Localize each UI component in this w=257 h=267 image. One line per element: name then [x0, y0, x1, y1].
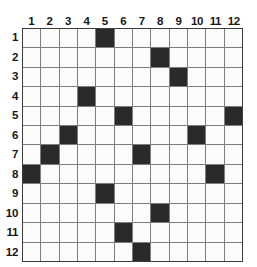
grid-cell-r4-c3[interactable] [60, 87, 77, 105]
grid-cell-r8-c3[interactable] [60, 165, 77, 183]
grid-cell-r5-c1[interactable] [23, 107, 40, 125]
grid-cell-r6-c5[interactable] [96, 126, 113, 144]
grid-cell-r10-c9[interactable] [170, 204, 187, 222]
grid-cell-r3-c7[interactable] [133, 68, 150, 86]
grid-cell-r4-c1[interactable] [23, 87, 40, 105]
grid-cell-r11-c7[interactable] [133, 223, 150, 241]
grid-cell-r8-c5[interactable] [96, 165, 113, 183]
grid-cell-r1-c2[interactable] [41, 29, 58, 47]
grid-cell-r8-c1[interactable] [23, 165, 40, 183]
grid-cell-r7-c5[interactable] [96, 145, 113, 163]
grid-cell-r8-c8[interactable] [151, 165, 168, 183]
grid-cell-r11-c6[interactable] [115, 223, 132, 241]
grid-cell-r1-c7[interactable] [133, 29, 150, 47]
grid-cell-r8-c12[interactable] [225, 165, 242, 183]
grid-cell-r10-c7[interactable] [133, 204, 150, 222]
grid-cell-r10-c8[interactable] [151, 204, 168, 222]
grid-cell-r3-c5[interactable] [96, 68, 113, 86]
grid-cell-r12-c9[interactable] [170, 243, 187, 261]
grid-cell-r2-c1[interactable] [23, 48, 40, 66]
grid-cell-r4-c10[interactable] [188, 87, 205, 105]
grid-cell-r8-c11[interactable] [206, 165, 223, 183]
grid-cell-r12-c2[interactable] [41, 243, 58, 261]
grid-cell-r8-c10[interactable] [188, 165, 205, 183]
grid-cell-r6-c6[interactable] [115, 126, 132, 144]
grid-cell-r10-c11[interactable] [206, 204, 223, 222]
grid-cell-r7-c10[interactable] [188, 145, 205, 163]
grid-cell-r7-c2[interactable] [41, 145, 58, 163]
grid-cell-r7-c3[interactable] [60, 145, 77, 163]
grid-cell-r4-c11[interactable] [206, 87, 223, 105]
grid-cell-r1-c10[interactable] [188, 29, 205, 47]
grid-cell-r7-c8[interactable] [151, 145, 168, 163]
grid-cell-r1-c4[interactable] [78, 29, 95, 47]
grid-cell-r8-c7[interactable] [133, 165, 150, 183]
grid-cell-r10-c2[interactable] [41, 204, 58, 222]
grid-cell-r6-c12[interactable] [225, 126, 242, 144]
grid-cell-r2-c9[interactable] [170, 48, 187, 66]
grid-cell-r12-c4[interactable] [78, 243, 95, 261]
grid-cell-r7-c4[interactable] [78, 145, 95, 163]
grid-cell-r11-c12[interactable] [225, 223, 242, 241]
grid-cell-r11-c10[interactable] [188, 223, 205, 241]
grid-cell-r12-c3[interactable] [60, 243, 77, 261]
grid-cell-r1-c6[interactable] [115, 29, 132, 47]
grid-cell-r12-c7[interactable] [133, 243, 150, 261]
grid-cell-r7-c6[interactable] [115, 145, 132, 163]
grid-cell-r12-c5[interactable] [96, 243, 113, 261]
grid-cell-r7-c7[interactable] [133, 145, 150, 163]
grid-cell-r6-c3[interactable] [60, 126, 77, 144]
grid-cell-r10-c4[interactable] [78, 204, 95, 222]
grid-cell-r12-c8[interactable] [151, 243, 168, 261]
grid-cell-r5-c11[interactable] [206, 107, 223, 125]
grid-cell-r3-c8[interactable] [151, 68, 168, 86]
grid-cell-r1-c5[interactable] [96, 29, 113, 47]
grid-cell-r1-c11[interactable] [206, 29, 223, 47]
grid-cell-r2-c4[interactable] [78, 48, 95, 66]
grid-cell-r3-c10[interactable] [188, 68, 205, 86]
grid-cell-r9-c2[interactable] [41, 184, 58, 202]
grid-cell-r12-c10[interactable] [188, 243, 205, 261]
grid-cell-r1-c1[interactable] [23, 29, 40, 47]
grid-cell-r12-c1[interactable] [23, 243, 40, 261]
grid-cell-r5-c12[interactable] [225, 107, 242, 125]
grid-cell-r3-c6[interactable] [115, 68, 132, 86]
grid-cell-r10-c12[interactable] [225, 204, 242, 222]
grid-cell-r8-c2[interactable] [41, 165, 58, 183]
grid-cell-r5-c8[interactable] [151, 107, 168, 125]
grid-cell-r2-c3[interactable] [60, 48, 77, 66]
grid-cell-r11-c5[interactable] [96, 223, 113, 241]
grid-cell-r4-c7[interactable] [133, 87, 150, 105]
grid-cell-r4-c8[interactable] [151, 87, 168, 105]
puzzle-grid[interactable] [22, 28, 243, 262]
grid-cell-r12-c11[interactable] [206, 243, 223, 261]
grid-cell-r5-c4[interactable] [78, 107, 95, 125]
grid-cell-r7-c11[interactable] [206, 145, 223, 163]
grid-cell-r12-c6[interactable] [115, 243, 132, 261]
grid-cell-r9-c1[interactable] [23, 184, 40, 202]
grid-cell-r6-c10[interactable] [188, 126, 205, 144]
grid-cell-r9-c10[interactable] [188, 184, 205, 202]
grid-cell-r3-c3[interactable] [60, 68, 77, 86]
grid-cell-r1-c3[interactable] [60, 29, 77, 47]
grid-cell-r9-c11[interactable] [206, 184, 223, 202]
grid-cell-r5-c7[interactable] [133, 107, 150, 125]
grid-cell-r8-c4[interactable] [78, 165, 95, 183]
grid-cell-r5-c6[interactable] [115, 107, 132, 125]
grid-cell-r11-c9[interactable] [170, 223, 187, 241]
grid-cell-r6-c4[interactable] [78, 126, 95, 144]
grid-cell-r2-c11[interactable] [206, 48, 223, 66]
grid-cell-r9-c4[interactable] [78, 184, 95, 202]
grid-cell-r6-c1[interactable] [23, 126, 40, 144]
grid-cell-r1-c8[interactable] [151, 29, 168, 47]
grid-cell-r10-c1[interactable] [23, 204, 40, 222]
grid-cell-r2-c8[interactable] [151, 48, 168, 66]
grid-cell-r6-c7[interactable] [133, 126, 150, 144]
grid-cell-r2-c7[interactable] [133, 48, 150, 66]
grid-cell-r9-c6[interactable] [115, 184, 132, 202]
grid-cell-r1-c9[interactable] [170, 29, 187, 47]
grid-cell-r7-c1[interactable] [23, 145, 40, 163]
grid-cell-r2-c2[interactable] [41, 48, 58, 66]
grid-cell-r6-c8[interactable] [151, 126, 168, 144]
grid-cell-r2-c10[interactable] [188, 48, 205, 66]
